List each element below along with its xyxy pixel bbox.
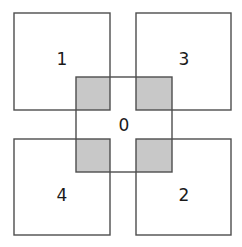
square-4-label: 4: [57, 185, 68, 205]
diagram-canvas: 1 3 4 2 0: [0, 0, 242, 247]
square-3-label: 3: [179, 49, 190, 69]
overlap-region-0-4: [76, 139, 110, 172]
square-0-label: 0: [119, 115, 130, 135]
square-1-label: 1: [57, 49, 68, 69]
overlap-region-0-3: [136, 77, 172, 110]
square-2-label: 2: [179, 185, 190, 205]
overlap-region-0-2: [136, 139, 172, 172]
overlapping-squares-figure: 1 3 4 2 0: [0, 0, 242, 247]
overlap-region-0-1: [76, 77, 110, 110]
